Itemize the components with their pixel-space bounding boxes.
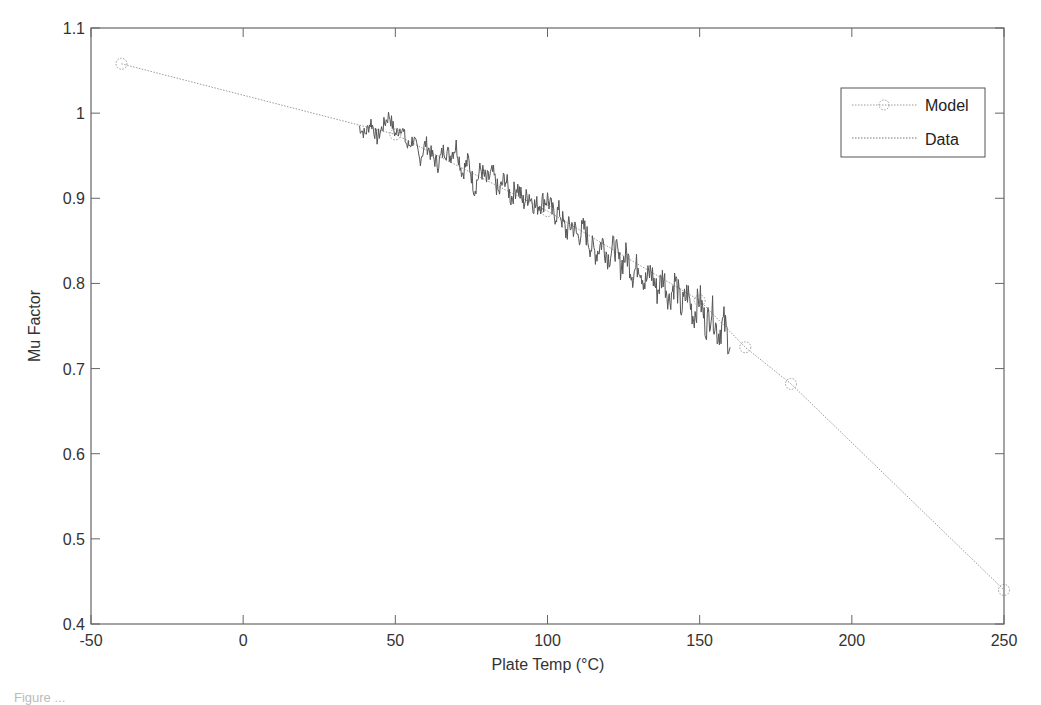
y-tick-label: 0.4 [63,616,85,633]
legend-label-model: Model [925,97,969,114]
y-tick-label: 1.1 [63,20,85,37]
legend-label-data: Data [925,131,959,148]
x-tick-label: -50 [79,632,102,649]
x-tick-label: 250 [991,632,1018,649]
y-tick-label: 0.6 [63,446,85,463]
y-tick-label: 0.8 [63,275,85,292]
y-tick-label: 0.9 [63,190,85,207]
y-tick-label: 0.7 [63,361,85,378]
x-tick-label: 200 [838,632,865,649]
y-tick-label: 0.5 [63,531,85,548]
x-tick-label: 150 [686,632,713,649]
y-tick-label: 1 [76,105,85,122]
figure-caption: Figure ... [14,690,65,705]
x-tick-label: 50 [386,632,404,649]
x-axis-label: Plate Temp (°C) [492,656,605,673]
x-tick-label: 0 [239,632,248,649]
y-axis-label: Mu Factor [26,289,43,362]
legend: Model Data [841,88,985,157]
x-tick-label: 100 [534,632,561,649]
